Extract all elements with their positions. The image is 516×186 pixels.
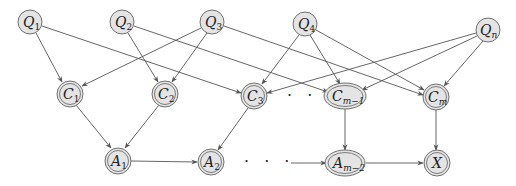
node-x-label: X: [431, 155, 443, 171]
edge-qn-c3: [267, 33, 476, 93]
edge-q4-cm: [316, 30, 424, 90]
edge-c1-a1: [76, 105, 111, 148]
edge-q3-c1: [82, 28, 201, 86]
node-c1: C1: [57, 81, 83, 107]
query-nodes: Q1 Q2 Q3 Q4 Qn: [18, 10, 500, 42]
node-qn: Qn: [476, 18, 500, 42]
node-x: X: [424, 150, 450, 176]
edge-qn-cm: [444, 41, 483, 86]
edge-q4-c3: [262, 35, 299, 84]
and-row-ellipsis: · · ·: [244, 152, 294, 171]
and-nodes: A1 A2 · · · Am−2 X: [105, 148, 450, 176]
edge-q1-c1: [36, 33, 62, 82]
node-c2: C2: [152, 81, 178, 107]
node-c3: C3: [241, 83, 267, 109]
node-cm: Cm: [423, 84, 449, 110]
edge-q2-c2: [128, 33, 158, 82]
node-a2: A2: [198, 149, 224, 175]
node-q3: Q3: [200, 10, 224, 34]
node-q4: Q4: [293, 12, 317, 36]
node-am2: Am−2: [325, 150, 365, 176]
edge-c3-a2: [218, 108, 248, 150]
node-q1: Q1: [18, 10, 42, 34]
bayesian-network-diagram: Q1 Q2 Q3 Q4 Qn C1 C2: [0, 0, 516, 186]
node-cm1: Cm−1: [324, 83, 366, 109]
clause-nodes: C1 C2 C3 · · · Cm−1 Cm: [57, 81, 449, 110]
node-a1: A1: [105, 148, 131, 174]
node-q2: Q2: [110, 10, 134, 34]
edge-c2-a1: [125, 105, 159, 148]
edge-a1-a2: [131, 161, 197, 162]
edge-qn-cm1: [362, 36, 477, 90]
